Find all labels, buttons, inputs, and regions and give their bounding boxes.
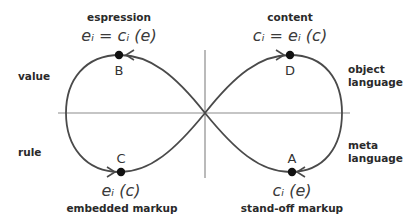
caption-a: stand-off markup [241,202,343,215]
label-meta-language: meta language [348,139,403,165]
point-d-dot [286,51,294,59]
point-a-dot [288,168,296,176]
point-label-d: D [285,64,295,78]
caption-d: content [267,11,313,24]
formula-b: eᵢ = cᵢ (e) [81,27,156,45]
label-object-language: object language [348,63,403,89]
point-c-dot [117,168,125,176]
point-b-dot [115,51,123,59]
point-label-c: C [116,152,125,166]
formula-a: cᵢ (e) [272,182,311,200]
label-value: value [18,70,50,83]
figure-eight-diagram [0,0,412,221]
point-label-b: B [115,64,124,78]
point-label-a: A [288,152,297,166]
formula-c: eᵢ (c) [101,182,140,200]
caption-b: espression [87,11,151,24]
caption-c: embedded markup [66,202,177,215]
label-rule: rule [18,146,41,159]
formula-d: cᵢ = eᵢ (c) [253,27,327,45]
